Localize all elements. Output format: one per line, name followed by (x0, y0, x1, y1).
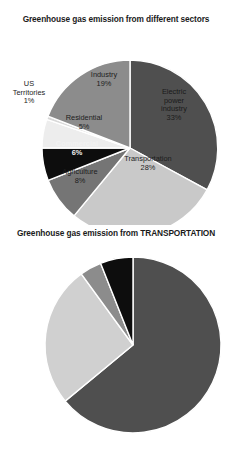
figure-greenhouse-gas-by-sector: Greenhouse gas emission from different s… (0, 0, 232, 225)
pie-slices-sectors (42, 60, 218, 225)
pie-svg-transportation (0, 225, 232, 451)
pie-chart-transportation (0, 225, 232, 451)
leader-line-us-territories (36, 113, 47, 118)
pie-chart-sectors (0, 0, 232, 225)
figure-greenhouse-gas-transportation: Greenhouse gas emission from TRANSPORTAT… (0, 225, 232, 451)
pie-svg-sectors (0, 0, 232, 225)
pie-slices-transportation (45, 257, 221, 433)
